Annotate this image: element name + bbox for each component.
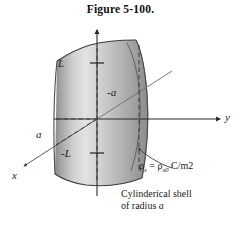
x-axis-label: x <box>12 169 17 181</box>
cylinder-shell <box>54 40 148 186</box>
caption-radius-prefix: of radius <box>121 200 159 211</box>
radius-label-left: a <box>36 128 42 140</box>
axis-label-lower-height: -L <box>61 147 71 159</box>
equals-sign: = <box>147 160 158 171</box>
caption-line-1: Cylinderical shell <box>121 188 192 200</box>
figure-container: Figure 5-100. <box>0 0 241 231</box>
charge-units: C/m2 <box>169 160 194 171</box>
caption-radius-symbol: a <box>159 200 164 211</box>
caption-line-2: of radius a <box>121 200 192 212</box>
y-axis-label: y <box>225 111 230 123</box>
radius-label-right: -a <box>107 86 116 98</box>
axis-label-upper-height: L <box>58 57 64 69</box>
figure-caption: Cylinderical shell of radius a <box>121 188 192 212</box>
surface-charge-density-label: ρs = ρs0 C/m2 <box>139 160 193 174</box>
